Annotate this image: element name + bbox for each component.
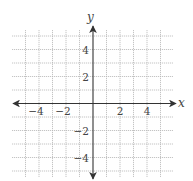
- y-tick-label: 4: [82, 44, 89, 56]
- x-tick-label: −4: [28, 105, 44, 117]
- coordinate-plane: x y −4−224 42−2−4: [0, 0, 193, 181]
- x-tick-label: −2: [55, 105, 70, 117]
- x-tick-labels: −4−224: [28, 105, 150, 117]
- y-tick-label: −2: [74, 125, 89, 137]
- x-tick-label: 4: [144, 105, 151, 117]
- y-tick-label: −4: [74, 152, 90, 164]
- y-axis-label: y: [86, 10, 94, 24]
- x-tick-label: 2: [117, 105, 124, 117]
- y-tick-label: 2: [82, 71, 89, 83]
- x-axis-label: x: [178, 96, 185, 110]
